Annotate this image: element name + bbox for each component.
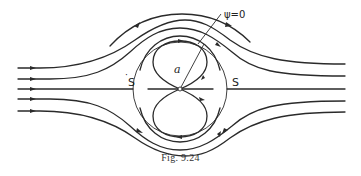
arrow-icon <box>30 66 36 70</box>
psi-leader-line <box>198 14 221 44</box>
stagnation-left-label: S <box>128 76 135 89</box>
psi-label: ψ=0 <box>224 9 245 20</box>
figure-eight-lower-loop <box>153 89 207 137</box>
streamline-diagram: ψ=0 a · S S <box>0 0 361 176</box>
figure-caption: Fig. 9.24 <box>0 152 361 163</box>
center-point <box>178 87 182 91</box>
arrow-icon <box>199 97 205 101</box>
stagnation-right-label: S <box>232 76 239 89</box>
arrow-icon <box>30 97 36 101</box>
streamline-lower-outer <box>18 111 345 156</box>
arrow-icon <box>222 128 228 134</box>
arrow-icon <box>134 22 140 28</box>
arrow-icon <box>30 109 36 113</box>
streamline-upper-outer <box>18 20 345 68</box>
arrow-icon <box>30 87 36 91</box>
radius-label: a <box>174 63 181 76</box>
arrow-icon <box>30 77 36 81</box>
